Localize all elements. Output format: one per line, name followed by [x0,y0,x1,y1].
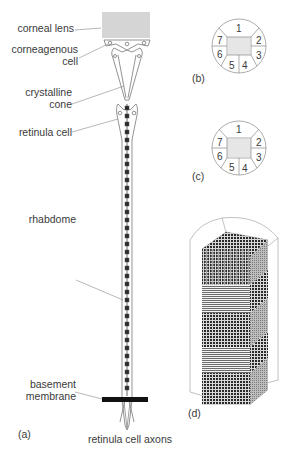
panel-a-tag: (a) [18,428,31,440]
panel-b-cell-4: 4 [242,60,248,72]
label-basement-membrane-line2: membrane [2,390,76,402]
panel-b-cell-7: 7 [217,35,223,47]
panel-b-cell-5: 5 [229,60,235,72]
panel-c-cell-4: 4 [242,163,248,175]
panel-b-cell-1: 1 [236,23,242,35]
panel-b-cell-2: 2 [256,35,262,47]
panel-c-cell-5: 5 [229,162,235,174]
panel-c-tag: (c) [192,170,204,182]
corneagenous-cell-shape [104,40,150,50]
label-basement-membrane-line1: basement [2,378,76,390]
panel-c-cell-2: 2 [256,137,262,149]
panel-b-tag: (b) [192,72,205,84]
label-retinula-cell: retinula cell [2,126,72,138]
panel-c-cell-1: 1 [236,124,242,136]
leader-lines [72,28,124,399]
label-corneagenous-cell-line2: cell [2,55,78,67]
rhabdome-shape [125,104,129,396]
label-corneagenous-cell-line1: corneagenous [2,43,78,55]
label-rhabdome: rhabdome [2,213,76,225]
label-crystalline-cone-line2: cone [2,98,72,110]
panel-b-cell-3: 3 [256,50,262,62]
panel-c-cell-6: 6 [217,151,223,163]
label-crystalline-cone-line1: crystalline [2,86,72,98]
basement-membrane-shape [102,397,148,402]
crystalline-cone-shape [112,48,143,100]
panel-c-cell-7: 7 [217,137,223,149]
panel-c-cell-3: 3 [256,152,262,164]
panel-b-cell-6: 6 [217,49,223,61]
panel-d-tag: (d) [188,407,201,419]
label-retinula-cell-axons: retinula cell axons [88,433,172,445]
label-corneal-lens: corneal lens [2,22,74,34]
corneal-lens-shape [102,13,150,37]
panel-d-rhabdome-block [190,217,278,405]
